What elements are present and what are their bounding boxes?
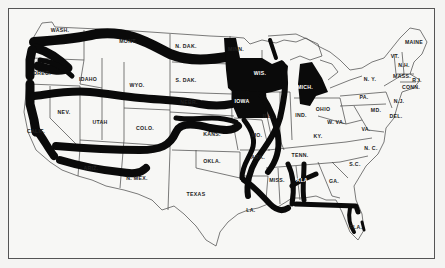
state-label-sc: S.C. (349, 161, 361, 167)
state-label-mass: MASS. (393, 73, 411, 79)
state-label-nmex: N. MEX. (126, 175, 148, 181)
state-label-wyo: WYO. (129, 82, 144, 88)
state-label-ndak: N. DAK. (175, 43, 197, 49)
state-label-la: LA. (246, 207, 256, 213)
state-label-iowa: IOWA (234, 98, 249, 104)
state-label-ariz: ARIZ. (83, 165, 98, 171)
state-label-pa: PA. (359, 94, 368, 100)
state-label-utah: UTAH (92, 119, 107, 125)
us-map: WASH.OREG.CALIF.IDAHONEV.MONT.WYO.UTAHCO… (0, 0, 445, 268)
state-label-sdak: S. DAK. (175, 77, 196, 83)
state-label-va: VA. (361, 126, 370, 132)
state-label-nebr: NEBR. (180, 99, 198, 105)
state-label-miss: MISS. (269, 177, 285, 183)
state-label-mich: MICH. (297, 84, 313, 90)
state-label-kans: KANS. (203, 131, 221, 137)
state-label-maine: MAINE (405, 39, 423, 45)
state-label-nev: NEV. (58, 109, 71, 115)
state-label-mont: MONT. (119, 38, 137, 44)
state-label-del: DEL. (389, 113, 402, 119)
state-label-ark: ARK. (251, 154, 265, 160)
state-label-calif: CALIF. (27, 128, 45, 134)
state-label-md: MD. (371, 107, 382, 113)
state-label-ny: N. Y. (364, 76, 377, 82)
state-label-ala: ALA. (296, 177, 310, 183)
state-label-colo: COLO. (136, 125, 154, 131)
state-label-mo: MO. (252, 132, 263, 138)
state-label-okla: OKLA. (203, 158, 221, 164)
state-label-ri: R.I. (412, 77, 422, 83)
state-label-texas: TEXAS (187, 191, 206, 197)
state-label-idaho: IDAHO (79, 76, 97, 82)
state-label-oreg: OREG. (33, 70, 51, 76)
state-label-wis: WIS. (254, 70, 267, 76)
state-label-minn: MINN. (228, 46, 244, 52)
state-label-wash: WASH. (51, 27, 70, 33)
state-label-tenn: TENN. (291, 152, 308, 158)
state-label-ga: GA. (329, 178, 339, 184)
state-label-nh: N.H. (398, 62, 410, 68)
state-label-ky: KY. (314, 133, 323, 139)
route-bands (30, 33, 238, 173)
state-label-ind: IND. (295, 112, 307, 118)
state-label-ohio: OHIO (316, 106, 330, 112)
state-label-nj: N.J. (394, 98, 405, 104)
state-label-conn: CONN. (402, 84, 420, 90)
state-label-vt: VT. (391, 53, 400, 59)
state-label-wva: W. VA. (327, 119, 345, 125)
state-label-ill: ILL. (263, 113, 274, 119)
state-label-nc: N. C. (364, 145, 378, 151)
state-label-fla: FLA. (350, 224, 363, 230)
